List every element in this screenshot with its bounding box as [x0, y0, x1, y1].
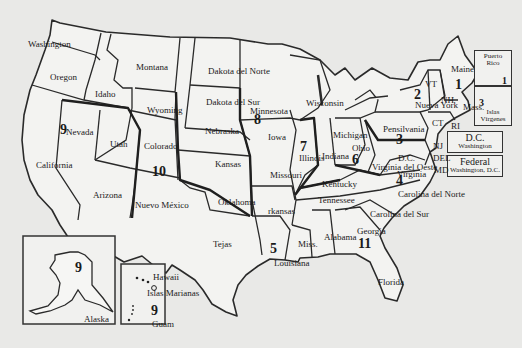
region-number: 9: [60, 123, 67, 137]
state-label: Miss.: [298, 240, 318, 249]
state-label: Montana: [136, 63, 168, 72]
state-label: NH: [441, 96, 454, 105]
region-number: 7: [300, 140, 307, 154]
state-label: Arizona: [93, 191, 122, 200]
region-number: 1: [455, 78, 462, 92]
state-label: rkansas: [268, 207, 295, 216]
state-label: Utah: [110, 140, 128, 149]
region-number: 2: [414, 88, 421, 102]
state-label: CT: [432, 119, 444, 128]
state-label: Kansas: [215, 160, 241, 169]
state-label: Dakota del Norte: [208, 67, 270, 76]
state-label: Oklahoma: [218, 198, 256, 207]
state-label: Guam: [152, 320, 174, 329]
state-label: NJ: [433, 142, 443, 151]
state-label: Georgia: [357, 227, 386, 236]
state-label: Florida: [378, 278, 404, 287]
inset-dc: D.C. Washington: [447, 131, 503, 153]
state-label: Nebraska: [205, 127, 239, 136]
state-label: Carolina del Norte: [398, 190, 465, 199]
state-label: Kentucky: [322, 180, 357, 189]
state-label: Mass.: [463, 103, 484, 112]
region-number: 5: [270, 242, 277, 256]
state-label: Carolina del Sur: [370, 210, 429, 219]
state-label: DEL: [433, 154, 451, 163]
state-label: RI: [451, 122, 460, 131]
state-label: Wyoming: [147, 106, 182, 115]
inset-puerto-rico: Puerto Rico 1: [474, 50, 512, 86]
state-label: Tennessee: [318, 196, 355, 205]
state-label: Alaska: [84, 315, 109, 324]
region-number: 10: [152, 165, 166, 179]
state-label: Alabama: [324, 233, 356, 242]
state-label: Louisiana: [274, 259, 310, 268]
state-label: Michigan: [333, 131, 368, 140]
region-number: 8: [254, 113, 261, 127]
state-label: Idaho: [95, 90, 116, 99]
region-number: 6: [352, 153, 359, 167]
state-label: Oregon: [50, 73, 77, 82]
state-label: Tejas: [213, 240, 232, 249]
state-label: VT: [425, 80, 437, 89]
state-label: Maine: [451, 65, 474, 74]
state-label: Illinois: [299, 154, 325, 163]
puerto-rico-label: Puerto Rico: [480, 53, 506, 67]
state-label: Washington: [28, 40, 71, 49]
dc-subtitle: Washington: [448, 143, 502, 150]
state-label: Colorado: [144, 142, 178, 151]
state-label: Hawaii: [153, 273, 179, 282]
region-number: 9: [75, 261, 82, 275]
region-number: 9: [151, 304, 158, 318]
state-label: MD: [434, 166, 449, 175]
state-label: Wisconsin: [306, 99, 344, 108]
state-label: California: [36, 161, 73, 170]
state-label: Indiana: [322, 152, 349, 161]
region-number: 11: [358, 237, 371, 251]
puerto-rico-number: 1: [502, 77, 507, 84]
state-label: Islas Marianas: [147, 289, 199, 298]
federal-subtitle: Washington, D.C.: [448, 167, 502, 174]
state-label: Pensilvania: [383, 125, 425, 134]
region-number: 4: [396, 174, 403, 188]
state-label: Nuevo México: [135, 201, 189, 210]
state-label: D.C.: [398, 154, 415, 163]
state-label: Nevada: [66, 128, 93, 137]
state-label: Missouri: [270, 171, 302, 180]
inset-federal: Federal Washington, D.C.: [447, 155, 503, 177]
region-number: 3: [396, 133, 403, 147]
state-label: Iowa: [268, 133, 286, 142]
